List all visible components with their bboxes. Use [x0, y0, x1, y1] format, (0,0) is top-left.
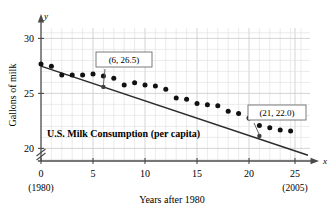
xtick-label-15: 15	[192, 168, 202, 179]
ytick-label-30: 30	[24, 33, 34, 44]
data-point	[226, 109, 231, 114]
data-point	[205, 102, 210, 107]
line-point-6	[101, 85, 105, 89]
x-axis-variable-label: x	[322, 156, 327, 166]
ytick-label-25: 25	[24, 88, 34, 99]
data-point	[122, 82, 127, 87]
data-point	[267, 125, 272, 130]
data-point	[91, 71, 96, 76]
xtick-sublabel-2005: (2005)	[282, 183, 307, 194]
xtick-sublabel-1980: (1980)	[28, 183, 53, 194]
data-point	[80, 73, 85, 78]
callout-1-label: (6, 26.5)	[109, 55, 140, 65]
xtick-label-25: 25	[290, 168, 300, 179]
data-point	[257, 123, 262, 128]
y-axis-variable-label: y	[43, 11, 48, 21]
data-point	[174, 96, 179, 101]
data-point	[132, 80, 137, 85]
data-point	[236, 111, 241, 116]
xtick-label-10: 10	[140, 168, 150, 179]
data-point	[111, 76, 116, 81]
data-point	[184, 97, 189, 102]
data-point	[59, 73, 64, 78]
data-point	[288, 129, 293, 134]
callout-2-label: (21, 22.0)	[259, 108, 294, 118]
xtick-label-20: 20	[244, 168, 254, 179]
data-point	[39, 62, 44, 67]
data-point	[49, 64, 54, 69]
ytick-label-20: 20	[24, 143, 34, 154]
data-point	[70, 73, 75, 78]
chart-inner-title: U.S. Milk Consumption (per capita)	[47, 128, 200, 140]
y-axis-title: Gallons of milk	[7, 64, 18, 127]
data-point	[153, 84, 158, 89]
data-point	[215, 103, 220, 108]
x-axis-title: Years after 1980	[139, 194, 205, 205]
chart-screenshot: y x 30 25 20 0 5 10 15 20 25 (1980) (200…	[0, 0, 335, 206]
data-point	[163, 87, 168, 92]
data-point	[101, 74, 106, 79]
data-point	[143, 82, 148, 87]
data-point	[195, 101, 200, 106]
data-point	[278, 128, 283, 133]
milk-consumption-scatter-chart: y x 30 25 20 0 5 10 15 20 25 (1980) (200…	[0, 0, 335, 206]
xtick-label-0: 0	[39, 168, 44, 179]
xtick-label-5: 5	[91, 168, 96, 179]
